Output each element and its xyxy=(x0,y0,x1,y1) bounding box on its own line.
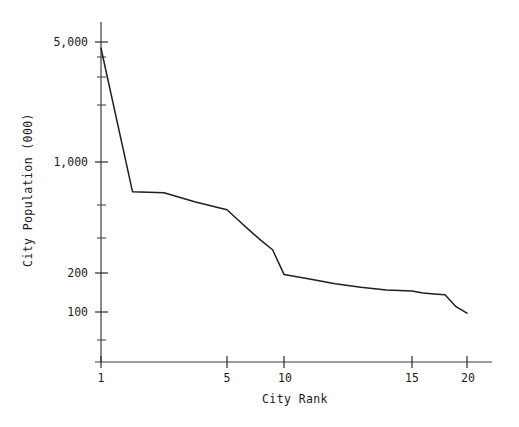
chart-container: 5,000 1,000 200 100 1 5 10 15 20 City Ra… xyxy=(0,0,519,427)
x-tick-label-15: 15 xyxy=(405,371,419,385)
y-tick-label-100: 100 xyxy=(67,305,88,319)
x-axis-title: City Rank xyxy=(262,392,328,406)
population-rank-chart: 5,000 1,000 200 100 1 5 10 15 20 City Ra… xyxy=(0,0,519,427)
x-tick-label-10: 10 xyxy=(278,371,292,385)
x-tick-label-1: 1 xyxy=(98,371,105,385)
y-tick-label-1000: 1,000 xyxy=(53,155,88,169)
x-tick-label-20: 20 xyxy=(461,371,475,385)
y-axis-title: City Population (000) xyxy=(21,113,35,267)
y-tick-label-200: 200 xyxy=(67,266,88,280)
y-tick-label-5000: 5,000 xyxy=(53,35,88,49)
chart-background xyxy=(0,0,519,427)
x-tick-label-5: 5 xyxy=(224,371,231,385)
